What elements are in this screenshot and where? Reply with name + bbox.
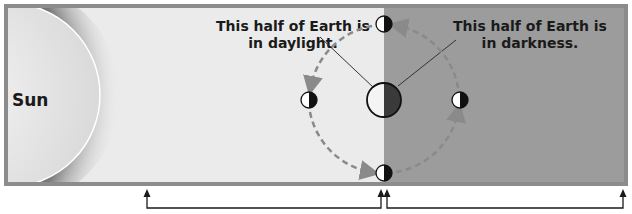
daylight-label-line1: This half of Earth is [216, 18, 370, 34]
earth-right [452, 92, 468, 108]
daylight-label-line2: in daylight. [248, 35, 337, 51]
bracket-darkness [387, 196, 623, 208]
earth-bottom [376, 165, 392, 181]
central-earth [367, 83, 401, 117]
darkness-label-line2: in darkness. [482, 35, 579, 51]
earth-top [376, 16, 392, 32]
earth-left [301, 92, 317, 108]
bracket-arrowheads [144, 189, 627, 197]
earth-day-night-diagram: Sun This half of Earth is in daylight. T… [0, 0, 632, 214]
darkness-label-line1: This half of Earth is [453, 18, 607, 34]
sun-label: Sun [12, 90, 48, 110]
bracket-daylight [147, 196, 381, 208]
